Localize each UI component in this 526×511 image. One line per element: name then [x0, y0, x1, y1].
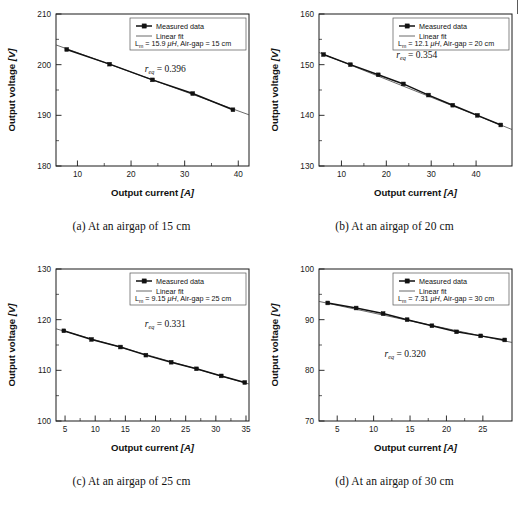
measured-data-point	[476, 113, 480, 117]
measured-data-point	[108, 62, 112, 66]
y-axis-title: Output voltage [V]	[6, 303, 17, 387]
y-axis-title-text: Output voltage	[269, 316, 280, 386]
y-tick-label: 100	[300, 265, 314, 274]
x-tick-label: 10	[369, 425, 379, 434]
measured-data-point	[119, 345, 123, 349]
legend-inductance-value: = 7.31	[406, 294, 430, 303]
y-tick-label: 90	[305, 316, 315, 325]
legend-parameters: Lm = 7.31 μH, Air-gap = 30 cm	[398, 294, 494, 304]
legend-label-measured: Measured data	[156, 22, 204, 31]
legend-airgap-value: , Air-gap = 30 cm	[440, 294, 495, 303]
x-axis-title: Output current [A]	[111, 187, 195, 198]
x-tick-label: 20	[382, 170, 392, 179]
y-axis-title-text: Output voltage	[269, 61, 280, 131]
panel-b-caption: (b) At an airgap of 20 cm	[335, 220, 454, 232]
legend-parameters: Lm = 9.15 μH, Air-gap = 25 cm	[135, 294, 231, 304]
panel-d-plot: 708090100510152025Output current [A]Outp…	[263, 255, 526, 473]
panel-a-chart: 18019020021010203040Output current [A]Ou…	[0, 0, 263, 218]
measured-data-point	[219, 374, 223, 378]
panel-d-caption: (d) At an airgap of 30 cm	[335, 475, 454, 487]
measured-data-point	[503, 338, 507, 342]
legend-airgap-value: , Air-gap = 20 cm	[440, 39, 495, 48]
figure-panel-grid: 18019020021010203040Output current [A]Ou…	[0, 0, 526, 511]
y-tick-label: 100	[37, 417, 51, 426]
measured-data-point	[322, 53, 326, 57]
measured-data-point	[430, 324, 434, 328]
panel-c-plot: 1001101201305101520253035Output current …	[0, 255, 263, 473]
x-axis-unit: [A]	[443, 187, 458, 198]
x-axis-title: Output current [A]	[374, 442, 458, 453]
x-tick-label: 20	[127, 170, 137, 179]
measured-data-point	[354, 306, 358, 310]
x-axis-title: Output current [A]	[111, 442, 195, 453]
panel-a-caption: (a) At an airgap of 15 cm	[73, 220, 191, 232]
legend-label-measured: Measured data	[419, 277, 467, 286]
r-eq-value: = 0.320	[394, 349, 426, 359]
x-tick-label: 5	[63, 425, 68, 434]
x-axis-title-text: Output current	[111, 187, 181, 198]
x-tick-label: 35	[241, 425, 251, 434]
panel-c-caption: (c) At an airgap of 25 cm	[73, 475, 191, 487]
y-tick-label: 160	[300, 10, 314, 19]
measured-data-point	[231, 108, 235, 112]
measured-data-point	[62, 329, 66, 333]
y-tick-label: 180	[37, 162, 51, 171]
legend-measured-marker	[405, 279, 409, 283]
measured-data-point	[381, 312, 385, 316]
r-eq-annotation: req = 0.354	[396, 50, 437, 61]
legend-inductance-value: = 9.15	[143, 294, 167, 303]
panel-d: 708090100510152025Output current [A]Outp…	[263, 255, 526, 511]
measured-data-point	[349, 63, 353, 67]
measured-data-line	[67, 49, 233, 109]
legend-label-measured: Measured data	[419, 22, 467, 31]
measured-data-point	[144, 353, 148, 357]
r-eq-value: = 0.331	[154, 319, 186, 329]
y-axis-unit: [V]	[6, 303, 17, 318]
x-tick-label: 40	[234, 170, 244, 179]
measured-data-point	[401, 82, 405, 86]
measured-data-point	[326, 301, 330, 305]
y-tick-label: 130	[37, 265, 51, 274]
r-eq-annotation: req = 0.396	[145, 64, 186, 75]
x-axis-unit: [A]	[180, 187, 195, 198]
legend-measured-marker	[142, 24, 146, 28]
y-tick-label: 130	[300, 162, 314, 171]
x-tick-label: 15	[405, 425, 415, 434]
x-axis-title-text: Output current	[374, 442, 444, 453]
legend-inductance-value: = 12.1	[406, 39, 430, 48]
panel-c: 1001101201305101520253035Output current …	[0, 255, 263, 511]
y-axis-unit: [V]	[6, 48, 17, 63]
panel-d-chart: 708090100510152025Output current [A]Outp…	[263, 255, 526, 473]
measured-data-point	[427, 93, 431, 97]
y-axis-title: Output voltage [V]	[269, 303, 280, 387]
legend-label-measured: Measured data	[156, 277, 204, 286]
r-eq-annotation: req = 0.320	[385, 349, 426, 360]
measured-data-point	[65, 48, 69, 52]
x-tick-label: 10	[73, 170, 83, 179]
x-tick-label: 20	[442, 425, 452, 434]
x-axis-title-text: Output current	[374, 187, 444, 198]
y-tick-label: 210	[37, 10, 51, 19]
panel-a-plot: 18019020021010203040Output current [A]Ou…	[0, 0, 263, 218]
measured-data-point	[195, 367, 199, 371]
x-tick-label: 20	[151, 425, 161, 434]
x-axis-unit: [A]	[180, 442, 195, 453]
legend-parameters: Lm = 12.1 μH, Air-gap = 20 cm	[398, 39, 494, 49]
panel-a: 18019020021010203040Output current [A]Ou…	[0, 0, 263, 255]
r-eq-annotation: req = 0.331	[145, 319, 186, 330]
measured-data-point	[451, 103, 455, 107]
y-tick-label: 70	[305, 417, 315, 426]
x-tick-label: 30	[427, 170, 437, 179]
measured-data-point	[405, 318, 409, 322]
panel-b-plot: 13014015016010203040Output current [A]Ou…	[263, 0, 526, 218]
x-axis-title: Output current [A]	[374, 187, 458, 198]
y-tick-label: 120	[37, 316, 51, 325]
r-eq-value: = 0.354	[406, 50, 438, 60]
x-tick-label: 25	[478, 425, 488, 434]
legend-airgap-value: , Air-gap = 15 cm	[177, 39, 232, 48]
x-tick-label: 10	[91, 425, 101, 434]
legend-parameters: Lm = 15.9 μH, Air-gap = 15 cm	[135, 39, 231, 49]
measured-data-point	[455, 330, 459, 334]
y-tick-label: 150	[300, 61, 314, 70]
y-tick-label: 80	[305, 366, 315, 375]
